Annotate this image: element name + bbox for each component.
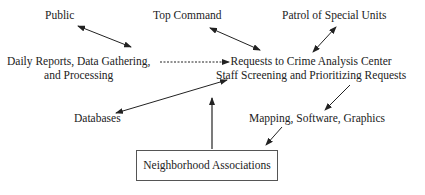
edge-top-center: [210, 28, 260, 50]
node-daily-line1: Daily Reports, Data Gathering,: [7, 55, 150, 69]
node-center-line1: Requests to Crime Analysis Center: [216, 55, 406, 69]
edge-public-daily: [78, 26, 131, 47]
node-center-line2: Staff Screening and Prioritizing Request…: [216, 69, 406, 83]
edge-patrol-center: [313, 27, 336, 52]
node-daily-reports: Daily Reports, Data Gathering, and Proce…: [7, 55, 150, 82]
node-databases: Databases: [74, 112, 121, 126]
edge-mapping-neighborhood: [266, 127, 282, 145]
node-neighborhood-associations: Neighborhood Associations: [136, 150, 278, 181]
edge-center-mapping: [325, 85, 350, 110]
node-crime-analysis-center: Requests to Crime Analysis Center Staff …: [216, 55, 406, 82]
node-patrol-special-units: Patrol of Special Units: [282, 9, 386, 23]
node-neighborhood-label: Neighborhood Associations: [143, 159, 270, 173]
node-public: Public: [45, 9, 74, 23]
node-top-command: Top Command: [153, 9, 222, 23]
edge-databases-center: [116, 80, 227, 113]
node-daily-line2: and Processing: [7, 69, 150, 83]
node-mapping-software-graphics: Mapping, Software, Graphics: [249, 112, 385, 126]
